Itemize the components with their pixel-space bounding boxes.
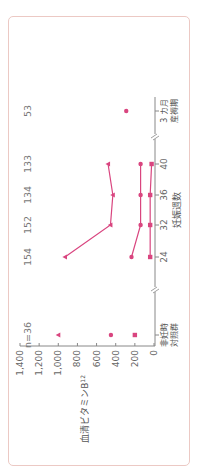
category-label: 32	[159, 219, 169, 230]
square-marker	[149, 162, 153, 166]
square-marker	[148, 193, 152, 197]
triangle-marker	[62, 254, 67, 259]
value-tick-label: 800	[72, 350, 82, 367]
category-label: 産褥期	[169, 99, 179, 123]
square-marker	[148, 255, 152, 259]
circle-marker	[129, 255, 133, 259]
circle-marker	[124, 109, 128, 113]
sample-size-label: 133	[22, 155, 33, 173]
value-tick-label: 600	[92, 350, 102, 367]
sample-size-label: 154	[22, 248, 33, 266]
chart-axes	[20, 97, 159, 346]
circle-series-line	[132, 164, 141, 257]
category-label: 非妊時	[159, 323, 169, 347]
value-axis-title: 血清ビタミンB12	[79, 375, 90, 443]
category-label: 36	[159, 189, 169, 201]
value-tick-label: 200	[130, 350, 140, 367]
triangle-marker	[56, 332, 61, 337]
square-marker	[148, 223, 152, 227]
circle-marker	[109, 333, 113, 337]
category-label: 対照群	[169, 323, 179, 347]
triangle-series-line	[65, 164, 113, 257]
circle-marker	[138, 193, 142, 197]
value-tick-label: 400	[111, 350, 121, 367]
chart-labels: 02004006008001,0001,2001,400血清ビタミンB12非妊時…	[15, 99, 182, 443]
category-label: 3 カ月	[160, 99, 169, 123]
value-tick-label: 0	[149, 350, 159, 356]
value-tick-label: 1,200	[34, 350, 44, 376]
sample-size-label: 53	[22, 105, 33, 117]
square-series-line	[150, 164, 151, 257]
sample-size-label: 134	[22, 186, 33, 204]
value-tick-label: 1,000	[53, 350, 63, 376]
category-label: 40	[159, 158, 169, 170]
chart-series	[56, 109, 154, 338]
sample-size-label: n=36	[22, 322, 33, 348]
category-label: 24	[159, 251, 169, 263]
circle-marker	[138, 223, 142, 227]
value-tick-label: 1,400	[15, 350, 25, 376]
category-axis-title: 妊娠週数	[171, 192, 182, 228]
circle-marker	[138, 162, 142, 166]
sample-size-label: 152	[22, 216, 33, 234]
square-marker	[133, 333, 137, 337]
